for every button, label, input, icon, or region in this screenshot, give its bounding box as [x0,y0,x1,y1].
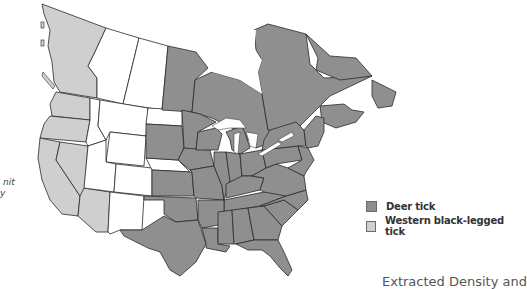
region-south-dakota [146,124,184,160]
region-new-england [304,116,324,148]
legend-item-deer-tick: Deer tick [366,196,511,216]
region-newfoundland [372,80,396,108]
legend-label-deer-tick: Deer tick [386,201,435,212]
region-wisconsin [196,128,222,150]
region-mississippi [218,210,234,244]
island [41,22,44,28]
region-kansas [152,170,194,196]
region-maritimes [320,104,364,128]
clipped-caption: nit y [0,177,15,198]
region-wyoming [106,132,146,166]
legend-swatch-western-tick [366,221,376,232]
clipped-footer-text: Extracted Density and [382,274,527,289]
legend-label-western-tick: Western black-legged tick [385,215,511,237]
legend-swatch-deer-tick [366,201,377,212]
map-legend: Deer tick Western black-legged tick [366,196,511,236]
region-florida [236,240,292,276]
clipped-caption-line-2: y [0,188,15,198]
region-colorado [114,164,152,196]
region-arizona [78,188,110,232]
island [41,40,44,46]
region-oklahoma [144,196,198,222]
region-oregon [40,116,90,142]
legend-item-western-tick: Western black-legged tick [366,216,511,236]
region-new-mexico [108,192,144,234]
clipped-caption-line-1: nit [3,177,15,187]
